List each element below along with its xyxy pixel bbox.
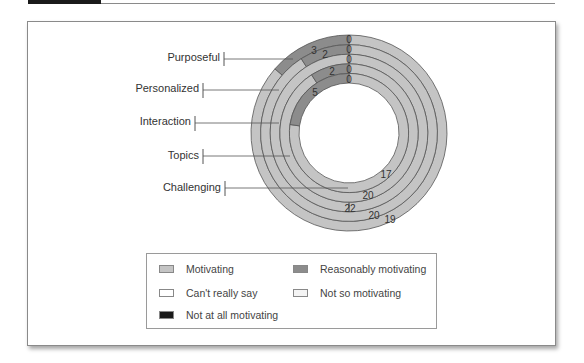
svg-text:17: 17 xyxy=(380,169,392,180)
legend: Motivating Reasonably motivating Can't r… xyxy=(146,253,437,329)
label-topics: Topics xyxy=(168,149,200,161)
label-interaction: Interaction xyxy=(140,115,191,127)
legend-item-motivating: Motivating xyxy=(159,263,234,275)
swatch-motivating xyxy=(159,265,174,273)
swatch-reasonably-motivating xyxy=(293,265,308,273)
legend-item-cant-really-say: Can't really say xyxy=(159,287,257,299)
svg-text:0: 0 xyxy=(346,74,352,85)
svg-text:2: 2 xyxy=(329,66,335,77)
legend-item-not-at-all-motivating: Not at all motivating xyxy=(159,309,278,321)
swatch-not-at-all-motivating xyxy=(159,311,174,319)
svg-text:20: 20 xyxy=(362,190,374,201)
swatch-cant-really-say xyxy=(159,289,174,297)
label-personalized: Personalized xyxy=(135,82,199,94)
svg-text:19: 19 xyxy=(384,214,396,225)
legend-item-reasonably-motivating: Reasonably motivating xyxy=(293,263,426,275)
svg-text:20: 20 xyxy=(368,210,380,221)
label-purposeful: Purposeful xyxy=(167,51,220,63)
svg-text:5: 5 xyxy=(312,87,318,98)
svg-text:3: 3 xyxy=(311,45,317,56)
label-challenging: Challenging xyxy=(163,181,221,193)
svg-text:2: 2 xyxy=(322,49,328,60)
swatch-not-so-motivating xyxy=(293,289,308,297)
legend-item-not-so-motivating: Not so motivating xyxy=(293,287,401,299)
svg-text:22: 22 xyxy=(344,203,356,214)
